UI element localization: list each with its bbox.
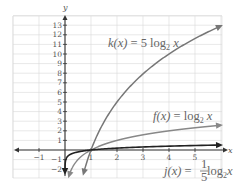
svg-text:2: 2 [115, 153, 120, 162]
k-function-label: k(x) = 5 log2 x [108, 36, 179, 52]
svg-text:log2x: log2x [207, 164, 233, 180]
svg-text:−2: −2 [51, 165, 62, 174]
svg-text:2: 2 [57, 126, 62, 135]
svg-text:6: 6 [57, 88, 62, 97]
y-axis-label: y [62, 3, 68, 12]
svg-text:13: 13 [52, 21, 62, 30]
svg-text:8: 8 [57, 69, 62, 78]
svg-text:−1: −1 [33, 153, 44, 162]
svg-text:−1: −1 [51, 155, 62, 164]
svg-text:5: 5 [57, 98, 62, 107]
svg-text:7: 7 [57, 78, 62, 87]
svg-text:10: 10 [52, 50, 62, 59]
svg-text:12: 12 [52, 30, 62, 39]
svg-text:1: 1 [57, 136, 62, 145]
j-function-label: j(x) = 1 5 log2x [162, 157, 233, 184]
svg-text:4: 4 [57, 107, 62, 116]
svg-text:3: 3 [57, 117, 62, 126]
svg-text:9: 9 [57, 59, 62, 68]
x-axis-label: x [228, 146, 233, 155]
svg-text:4: 4 [167, 153, 172, 162]
svg-text:5: 5 [193, 153, 198, 162]
svg-text:j(x) =: j(x) = [162, 164, 192, 178]
svg-text:11: 11 [52, 40, 62, 49]
svg-text:3: 3 [141, 153, 146, 162]
f-function-label: f(x) = log2 x [153, 109, 213, 125]
log-functions-chart: −112345−2−112345678910111213 y x k(x) = … [0, 0, 248, 193]
